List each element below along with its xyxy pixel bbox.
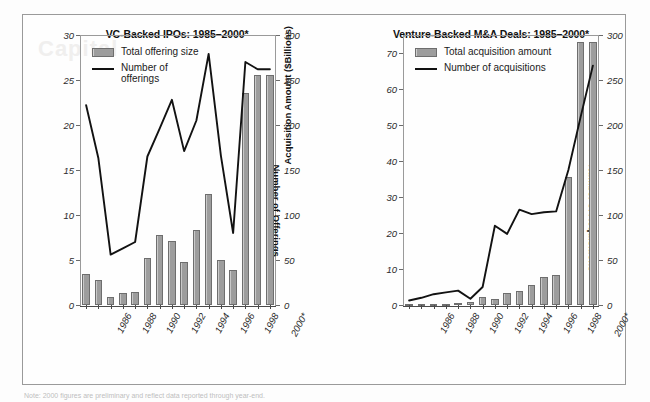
y2-tick-label: 150	[607, 165, 623, 176]
y-tick-label: 10	[369, 264, 397, 275]
y-tick-label: 30	[369, 192, 397, 203]
y-tick-label: 15	[46, 165, 74, 176]
y2-tick-label: 200	[607, 120, 623, 131]
y2-tick-label: 50	[607, 255, 618, 266]
y-tick-label: 50	[369, 120, 397, 131]
y-tick-label: 25	[46, 75, 74, 86]
y2-tick-label: 250	[607, 75, 623, 86]
y-tick-label: 0	[369, 300, 397, 311]
figure-page: Capital VC-Backed IPOs: 1985–2000* Total…	[0, 0, 650, 402]
y2-tick-label: 250	[284, 75, 300, 86]
y-tick-label: 60	[369, 84, 397, 95]
y-tick-label: 40	[369, 156, 397, 167]
y2-tick-label: 100	[607, 210, 623, 221]
y-tick-label: 20	[46, 120, 74, 131]
line-path	[409, 66, 593, 301]
y2-tick-label: 0	[284, 300, 289, 311]
y-tick-label: 70	[369, 48, 397, 59]
line-series-overlay	[403, 35, 601, 307]
y-tick-label: 0	[46, 300, 74, 311]
y2-tick-label: 50	[284, 255, 295, 266]
y2-tick-label: 200	[284, 120, 300, 131]
y2-tick-label: 0	[607, 300, 612, 311]
y-tick-label: 5	[46, 255, 74, 266]
y-tick-label: 30	[46, 30, 74, 41]
figure-footnote: Note: 2000 figures are preliminary and r…	[24, 392, 624, 401]
line-path	[86, 54, 270, 255]
y2-tick-label: 300	[607, 30, 623, 41]
y-tick-label: 10	[46, 210, 74, 221]
line-series-overlay	[80, 35, 278, 307]
y2-tick-label: 300	[284, 30, 300, 41]
y-tick-label: 20	[369, 228, 397, 239]
y2-tick-label: 150	[284, 165, 300, 176]
y2-tick-label: 100	[284, 210, 300, 221]
y-axis-title-right: Acquisition Amount ($Billions)	[282, 26, 293, 164]
